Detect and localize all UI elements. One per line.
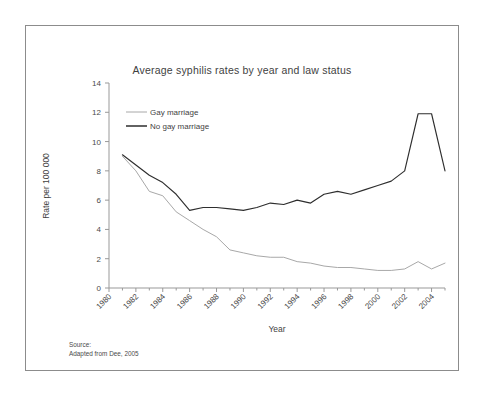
y-tick-label: 2 bbox=[97, 255, 102, 264]
figure-frame: Average syphilis rates by year and law s… bbox=[25, 25, 459, 371]
x-tick-label: 1986 bbox=[175, 292, 194, 311]
x-axis-title: Year bbox=[268, 324, 285, 334]
y-tick-label: 12 bbox=[92, 108, 101, 117]
y-axis-title: Rate per 100 000 bbox=[41, 153, 51, 219]
x-tick-label: 1998 bbox=[336, 292, 355, 311]
x-tick-label: 1984 bbox=[148, 292, 167, 311]
x-tick-label: 1996 bbox=[310, 292, 329, 311]
x-tick-label: 2002 bbox=[390, 292, 409, 311]
y-axis-ticks: 02468101214 bbox=[92, 79, 109, 293]
series-line-1 bbox=[122, 156, 445, 270]
x-tick-label: 2004 bbox=[417, 292, 436, 311]
chart-legend: Gay marriageNo gay marriage bbox=[126, 108, 210, 131]
x-tick-label: 1988 bbox=[202, 292, 221, 311]
source-note-text: Adapted from Dee, 2005 bbox=[69, 349, 139, 358]
y-tick-label: 4 bbox=[97, 225, 102, 234]
x-tick-label: 1992 bbox=[256, 292, 275, 311]
source-note-label: Source: bbox=[69, 340, 139, 349]
x-tick-label: 2000 bbox=[363, 292, 382, 311]
syphilis-rate-line-chart: 02468101214 1980198219841986198819901992… bbox=[26, 26, 460, 372]
y-tick-label: 10 bbox=[92, 138, 101, 147]
source-note: Source: Adapted from Dee, 2005 bbox=[69, 340, 139, 358]
data-series-layer bbox=[122, 114, 445, 271]
legend-label-2: No gay marriage bbox=[150, 122, 210, 131]
y-tick-label: 0 bbox=[97, 284, 102, 293]
x-axis-ticks: 1980198219841986198819901992199419961998… bbox=[94, 288, 445, 311]
x-tick-label: 1980 bbox=[94, 292, 113, 311]
x-tick-label: 1994 bbox=[283, 292, 302, 311]
x-tick-label: 1982 bbox=[121, 292, 140, 311]
y-tick-label: 14 bbox=[92, 79, 101, 88]
y-tick-label: 8 bbox=[97, 167, 102, 176]
x-tick-label: 1990 bbox=[229, 292, 248, 311]
legend-label-1: Gay marriage bbox=[150, 108, 199, 117]
y-tick-label: 6 bbox=[97, 196, 102, 205]
